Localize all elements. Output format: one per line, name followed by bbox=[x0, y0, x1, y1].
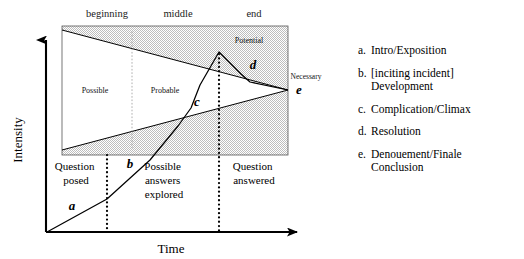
zone-label-necessary: Necessary bbox=[291, 72, 322, 81]
legend: a. Intro/Exposition b. [inciting inciden… bbox=[358, 44, 520, 184]
legend-item-b: b. [inciting incident] Development bbox=[358, 67, 520, 94]
stage-label-question-answered: Question answered bbox=[233, 160, 276, 186]
legend-item-a: a. Intro/Exposition bbox=[358, 44, 520, 58]
stage-label-line: Possible bbox=[144, 160, 181, 172]
legend-key-e: e. bbox=[358, 148, 371, 162]
stage-label-line: answered bbox=[233, 174, 275, 186]
legend-item-e: e. Denouement/Finale Conclusion bbox=[358, 148, 520, 175]
stage-label-line: Question bbox=[55, 160, 95, 172]
stage-label-line: posed bbox=[63, 174, 89, 186]
legend-item-d: d. Resolution bbox=[358, 125, 520, 139]
zone-label-probable: Probable bbox=[151, 86, 180, 95]
legend-text-d: Resolution bbox=[371, 125, 520, 139]
zone-label-possible: Possible bbox=[82, 86, 109, 95]
legend-key-c: c. bbox=[358, 103, 371, 117]
legend-key-a: a. bbox=[358, 44, 371, 58]
phase-label-beginning: beginning bbox=[86, 8, 129, 19]
curve-letter-b: b bbox=[127, 156, 134, 171]
stage-label-line: answers bbox=[145, 174, 180, 186]
stage-label-line: Question bbox=[233, 160, 273, 172]
curve-letter-c: c bbox=[194, 94, 200, 109]
legend-text-a: Intro/Exposition bbox=[371, 44, 520, 58]
legend-text-b: [inciting incident] Development bbox=[371, 67, 520, 94]
legend-text-c: Complication/Climax bbox=[371, 103, 520, 117]
stage-label-possible-answers-explored: Possible answers explored bbox=[144, 160, 183, 200]
stage-label-line: explored bbox=[145, 188, 184, 200]
phase-label-end: end bbox=[246, 8, 262, 19]
legend-item-c: c. Complication/Climax bbox=[358, 103, 520, 117]
zone-label-potential: Potential bbox=[235, 36, 264, 45]
curve-letter-d: d bbox=[250, 57, 257, 72]
legend-text-e: Denouement/Finale Conclusion bbox=[371, 148, 520, 175]
x-axis-title: Time bbox=[158, 241, 185, 256]
stage-label-question-posed: Question posed bbox=[55, 160, 97, 186]
narrative-structure-figure: beginning middle end Possible Probable P… bbox=[0, 0, 524, 259]
legend-key-d: d. bbox=[358, 125, 371, 139]
curve-letter-a: a bbox=[69, 198, 76, 213]
phase-label-middle: middle bbox=[163, 8, 193, 19]
curve-letter-e: e bbox=[296, 82, 302, 97]
y-axis-title: Intensity bbox=[10, 117, 25, 163]
legend-key-b: b. bbox=[358, 67, 371, 81]
